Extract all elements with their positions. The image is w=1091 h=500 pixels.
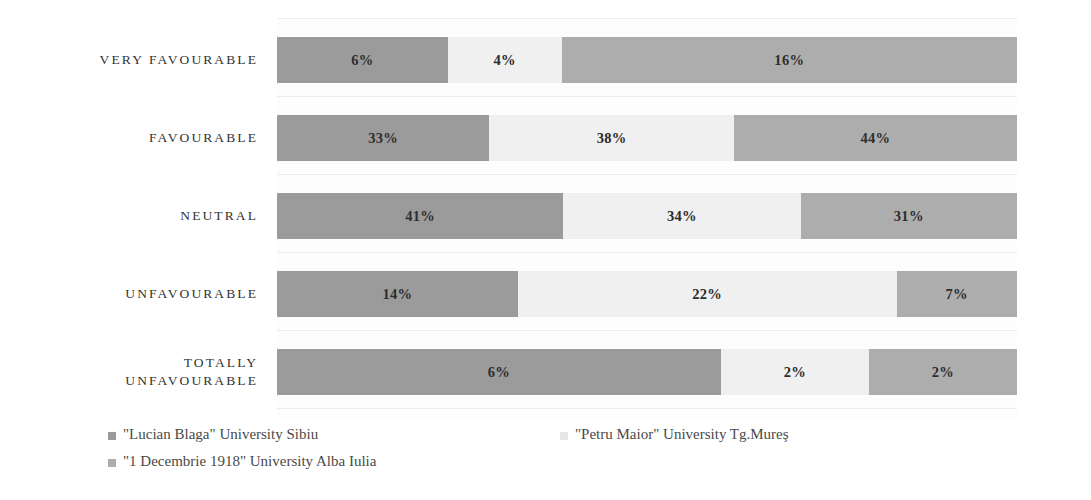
chart-legend: "Lucian Blaga" University Sibiu "Petru M… bbox=[108, 424, 1048, 478]
stacked-bar: 41%34%31% bbox=[277, 193, 1017, 239]
category-label: TOTALLY UNFAVOURABLE bbox=[0, 354, 258, 390]
chart-row: UNFAVOURABLE14%22%7% bbox=[0, 264, 1091, 324]
bar-segment[interactable]: 41% bbox=[277, 193, 563, 239]
category-label: VERY FAVOURABLE bbox=[0, 51, 258, 69]
bar-segment[interactable]: 2% bbox=[721, 349, 869, 395]
legend-label: "Petru Maior" University Tg.Mureş bbox=[575, 424, 789, 446]
bar-segment[interactable]: 31% bbox=[801, 193, 1017, 239]
bar-segment-value: 6% bbox=[488, 364, 510, 381]
chart-row: FAVOURABLE33%38%44% bbox=[0, 108, 1091, 168]
bar-segment-value: 38% bbox=[597, 130, 627, 147]
category-label: UNFAVOURABLE bbox=[0, 285, 258, 303]
bar-segment[interactable]: 22% bbox=[518, 271, 897, 317]
gridline bbox=[277, 18, 1017, 19]
gridline bbox=[277, 330, 1017, 331]
bar-segment-value: 33% bbox=[368, 130, 398, 147]
legend-item-1[interactable]: "Petru Maior" University Tg.Mureş bbox=[560, 424, 789, 446]
bar-segment[interactable]: 6% bbox=[277, 349, 721, 395]
bar-segment[interactable]: 7% bbox=[897, 271, 1017, 317]
legend-item-2[interactable]: "1 Decembrie 1918" University Alba Iulia bbox=[108, 451, 560, 473]
bar-segment-value: 14% bbox=[383, 286, 413, 303]
chart-row: NEUTRAL41%34%31% bbox=[0, 186, 1091, 246]
legend-row: "1 Decembrie 1918" University Alba Iulia bbox=[108, 451, 1048, 473]
bar-segment[interactable]: 34% bbox=[563, 193, 800, 239]
bar-segment[interactable]: 33% bbox=[277, 115, 489, 161]
gridline bbox=[277, 408, 1017, 409]
gridline bbox=[277, 96, 1017, 97]
bar-segment-value: 2% bbox=[932, 364, 954, 381]
bar-segment[interactable]: 6% bbox=[277, 37, 448, 83]
gridline bbox=[277, 252, 1017, 253]
bar-segment-value: 16% bbox=[774, 52, 804, 69]
bar-segment[interactable]: 2% bbox=[869, 349, 1017, 395]
bar-segment-value: 6% bbox=[351, 52, 373, 69]
gridline bbox=[277, 174, 1017, 175]
bar-segment-value: 34% bbox=[667, 208, 697, 225]
bar-segment-value: 44% bbox=[860, 130, 890, 147]
bar-segment-value: 31% bbox=[894, 208, 924, 225]
bar-segment[interactable]: 38% bbox=[489, 115, 734, 161]
stacked-bar-chart: VERY FAVOURABLE6%4%16%FAVOURABLE33%38%44… bbox=[0, 0, 1091, 500]
bar-segment[interactable]: 14% bbox=[277, 271, 518, 317]
bar-segment[interactable]: 44% bbox=[734, 115, 1017, 161]
stacked-bar: 14%22%7% bbox=[277, 271, 1017, 317]
bar-segment-value: 2% bbox=[784, 364, 806, 381]
stacked-bar: 6%2%2% bbox=[277, 349, 1017, 395]
bar-segment[interactable]: 16% bbox=[562, 37, 1017, 83]
legend-row: "Lucian Blaga" University Sibiu "Petru M… bbox=[108, 424, 1048, 446]
bar-segment-value: 22% bbox=[692, 286, 722, 303]
legend-label: "1 Decembrie 1918" University Alba Iulia bbox=[123, 451, 376, 473]
legend-swatch-icon bbox=[108, 459, 116, 467]
legend-label: "Lucian Blaga" University Sibiu bbox=[123, 424, 318, 446]
bar-segment[interactable]: 4% bbox=[448, 37, 562, 83]
legend-swatch-icon bbox=[560, 432, 568, 440]
stacked-bar: 33%38%44% bbox=[277, 115, 1017, 161]
bar-segment-value: 7% bbox=[946, 286, 968, 303]
stacked-bar: 6%4%16% bbox=[277, 37, 1017, 83]
bar-segment-value: 4% bbox=[494, 52, 516, 69]
chart-row: VERY FAVOURABLE6%4%16% bbox=[0, 30, 1091, 90]
category-label: NEUTRAL bbox=[0, 207, 258, 225]
legend-item-0[interactable]: "Lucian Blaga" University Sibiu bbox=[108, 424, 560, 446]
bar-segment-value: 41% bbox=[405, 208, 435, 225]
legend-swatch-icon bbox=[108, 432, 116, 440]
chart-row: TOTALLY UNFAVOURABLE6%2%2% bbox=[0, 342, 1091, 402]
category-label: FAVOURABLE bbox=[0, 129, 258, 147]
